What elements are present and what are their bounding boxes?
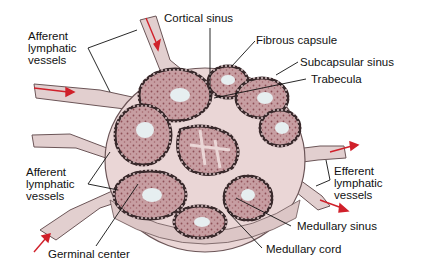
label-afferent-lymphatic-vessels-top: Afferent lymphatic vessels: [28, 30, 77, 66]
arrow-head: [350, 142, 358, 150]
germinal-center: [136, 122, 154, 138]
label-medullary-cord: Medullary cord: [266, 243, 341, 255]
germinal-center: [142, 188, 162, 202]
label-afferent-lymphatic-vessels-bottom: Afferent lymphatic vessels: [26, 166, 75, 202]
label-germinal-center: Germinal center: [48, 248, 130, 260]
leader-efferent: [316, 160, 330, 186]
label-trabecula: Trabecula: [311, 73, 362, 85]
arrow-head: [339, 204, 348, 212]
medulla: [178, 126, 238, 175]
germinal-center: [194, 217, 210, 227]
germinal-center: [170, 88, 190, 102]
flow-arrow: [34, 238, 46, 252]
germinal-center: [221, 75, 235, 85]
leader-afferent-top: [88, 30, 137, 92]
label-subcapsular-sinus: Subcapsular sinus: [300, 56, 394, 68]
germinal-center: [241, 189, 255, 201]
label-medullary-sinus: Medullary sinus: [297, 220, 377, 232]
germinal-center: [257, 92, 273, 104]
leader-fibrous-capsule: [232, 41, 255, 66]
label-fibrous-capsule: Fibrous capsule: [256, 34, 337, 46]
label-cortical-sinus: Cortical sinus: [164, 12, 233, 24]
lymph-node-diagram: Afferent lymphatic vessels Cortical sinu…: [0, 0, 430, 276]
label-efferent-lymphatic-vessels: Efferent lymphatic vessels: [334, 165, 383, 201]
leader-subcapsular-sinus: [276, 62, 298, 75]
germinal-center: [275, 122, 289, 134]
